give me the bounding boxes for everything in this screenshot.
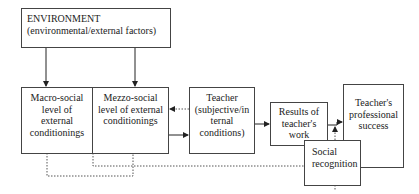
mezzo-social-node: Mezzo-social level of external condition… — [92, 87, 169, 154]
macro-social-label: Macro-social level of external condition… — [30, 92, 84, 138]
teacher-node: Teacher (subjective/in ternal conditions… — [189, 87, 255, 154]
social-recognition-label: Social recognition — [312, 146, 358, 169]
social-recognition-node: Social recognition — [304, 140, 361, 186]
environment-node: ENVIRONMENT (environmental/external fact… — [21, 8, 171, 48]
macro-social-node: Macro-social level of external condition… — [21, 87, 93, 154]
edge-results-success — [327, 122, 342, 125]
professional-success-label: Teacher's professional success — [349, 97, 398, 131]
edge-mezzo-social-dotted — [93, 153, 304, 166]
environment-title: ENVIRONMENT — [27, 13, 165, 25]
mezzo-social-label: Mezzo-social level of external condition… — [98, 92, 163, 126]
teacher-label: Teacher (subjective/in ternal conditions… — [195, 92, 249, 138]
edge-macro-mezzo-dotted — [47, 153, 133, 176]
results-label: Results of teacher's work — [279, 106, 319, 140]
environment-subtitle: (environmental/external factors) — [27, 25, 165, 37]
